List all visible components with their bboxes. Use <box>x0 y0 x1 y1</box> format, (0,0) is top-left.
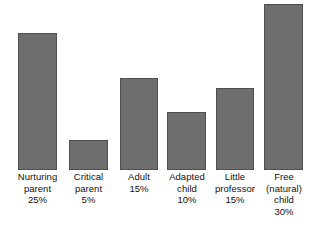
bar-label-free-natural-child: Free (natural) child 30% <box>253 171 315 217</box>
bar-adapted-child <box>167 112 206 170</box>
plot-area <box>0 0 320 170</box>
bar-free-natural-child <box>264 4 303 170</box>
bar-adult <box>120 78 158 170</box>
bar-nurturing-parent <box>18 33 57 170</box>
bar-chart: Nurturing parent 25% Critical parent 5% … <box>0 0 320 233</box>
bar-little-professor <box>216 88 254 170</box>
bar-critical-parent <box>69 140 108 170</box>
category-labels: Nurturing parent 25% Critical parent 5% … <box>0 171 320 233</box>
